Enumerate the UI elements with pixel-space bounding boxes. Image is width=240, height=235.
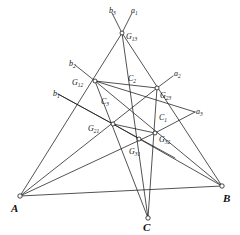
vertex-point-c[interactable] [146, 216, 150, 220]
segment-layer [20, 13, 222, 218]
line-label-c1: C1 [159, 114, 167, 122]
line-label-b2: b2 [69, 60, 76, 68]
line-label-c2: C2 [128, 75, 136, 83]
line-segment-a2-stub [157, 76, 173, 88]
line-segment-B-G13 [122, 33, 222, 186]
vertex-point-b[interactable] [220, 184, 224, 188]
vertex-label-c: C [143, 222, 150, 233]
line-label-c3: C3 [101, 98, 109, 106]
line-label-a3: a3 [196, 108, 203, 116]
line-segment-B-G12 [95, 81, 222, 186]
line-segment-A-G13 [20, 33, 122, 196]
line-label-a2: a2 [174, 70, 181, 78]
point-label-g13: G13 [126, 33, 137, 41]
intersection-point-g31[interactable] [137, 137, 141, 141]
line-label-a1: a1 [131, 7, 138, 15]
line-segment-b1-through [58, 94, 175, 158]
line-segment-C-G23 [148, 88, 157, 218]
point-label-g21: G21 [88, 125, 99, 133]
point-label-g12: G12 [72, 79, 83, 87]
intersection-point-g13[interactable] [120, 31, 124, 35]
intersection-point-g12[interactable] [93, 79, 97, 83]
line-segment-G12-G23 [95, 81, 157, 88]
line-segment-b3-stub [112, 13, 122, 33]
intersection-point-g23[interactable] [155, 86, 159, 90]
point-label-g31: G31 [129, 148, 140, 156]
vertex-label-a: A [11, 203, 18, 214]
figure-canvas [0, 0, 240, 235]
line-segment-A-B [20, 186, 222, 196]
line-label-b3: b3 [109, 7, 116, 15]
point-label-g32: G32 [159, 136, 170, 144]
line-segment-a3-through [95, 81, 195, 112]
line-label-b1: b1 [53, 90, 60, 98]
intersection-point-g21[interactable] [111, 122, 115, 126]
point-label-g23: G23 [160, 92, 171, 100]
line-segment-a1-stub [122, 13, 132, 33]
vertex-label-b: B [223, 193, 230, 204]
geometry-figure: ABCG13G12G23G21G32G31a1b3b2b1a2a3C1C2C3 [0, 0, 240, 235]
vertex-point-a[interactable] [18, 194, 22, 198]
intersection-point-g32[interactable] [153, 131, 157, 135]
